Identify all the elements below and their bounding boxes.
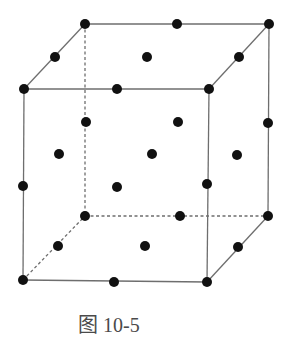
atom-dot — [173, 117, 183, 127]
cube-lattice-diagram — [0, 0, 285, 300]
atom-dot — [264, 19, 274, 29]
atom-dot — [204, 84, 214, 94]
atom-dot — [234, 52, 244, 62]
atom-dot — [140, 241, 150, 251]
figure-caption: 图 10-5 — [78, 309, 140, 338]
atom-dot — [54, 149, 64, 159]
atom-dot — [109, 277, 119, 287]
atom-dot — [81, 117, 91, 127]
atom-dot — [80, 211, 90, 221]
atom-dot — [263, 211, 273, 221]
atom-dot — [233, 242, 243, 252]
atom-dot — [202, 179, 212, 189]
atom-dot — [147, 149, 157, 159]
atom-dot — [53, 241, 63, 251]
atom-dot — [18, 181, 28, 191]
atom-dot — [232, 150, 242, 160]
atom-dot — [19, 84, 29, 94]
atom-dot — [172, 19, 182, 29]
atom-dot — [80, 19, 90, 29]
lattice-atoms — [18, 19, 274, 287]
atom-dot — [112, 182, 122, 192]
atom-dot — [175, 211, 185, 221]
atom-dot — [263, 118, 273, 128]
atom-dot — [18, 275, 28, 285]
atom-dot — [142, 52, 152, 62]
atom-dot — [202, 277, 212, 287]
atom-dot — [112, 84, 122, 94]
atom-dot — [50, 52, 60, 62]
